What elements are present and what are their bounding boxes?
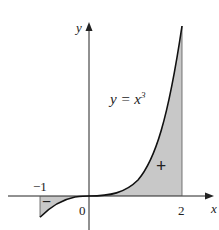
x-axis-arrow-icon [205,193,214,200]
positive-area-region [89,26,182,196]
equation-exponent: 3 [140,90,146,100]
tick-label-neg1: −1 [33,179,47,194]
x-axis-label: x [210,201,217,216]
tick-label-0: 0 [79,203,86,218]
tick-label-2: 2 [178,203,185,218]
positive-sign-label: + [156,156,166,176]
equation-label: y = x3 [108,90,146,107]
cubic-integral-diagram: y x −1 0 2 y = x3 + − [0,0,219,230]
negative-sign-label: − [42,193,51,210]
y-axis-label: y [74,20,82,35]
y-axis-arrow-icon [86,22,93,31]
